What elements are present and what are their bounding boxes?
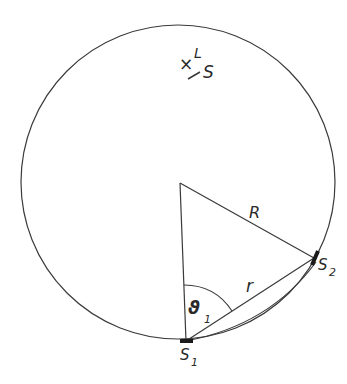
label-S-top: S	[203, 62, 214, 82]
main-circle	[21, 25, 335, 339]
label-r: r	[246, 276, 254, 296]
label-theta-sub: 1	[204, 313, 211, 326]
x-marker: ×	[179, 54, 193, 74]
radius-R	[180, 183, 314, 258]
s1-marker	[180, 339, 193, 343]
chord-r	[186, 258, 314, 341]
label-theta: ϑ	[188, 297, 200, 318]
label-s1-sub: 1	[191, 356, 198, 369]
radius-to-s1	[180, 183, 186, 341]
label-s1: S	[180, 346, 190, 364]
label-s2-sub: 2	[329, 266, 336, 279]
label-L: L	[194, 45, 202, 61]
label-s2: S	[318, 256, 328, 274]
inner-arc	[186, 262, 316, 341]
label-R: R	[249, 203, 260, 222]
diagram-canvas: × L S R r ϑ 1 S 1 S 2	[0, 0, 347, 384]
